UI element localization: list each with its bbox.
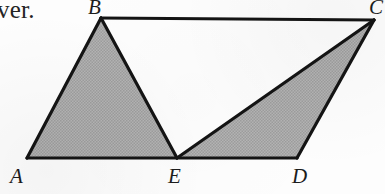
vertex-label-E: E xyxy=(168,166,181,187)
geometry-figure xyxy=(0,0,385,194)
figure-page: ver. A B C D E xyxy=(0,0,385,194)
edge-BC xyxy=(101,18,374,20)
vertex-label-D: D xyxy=(292,166,307,187)
shaded-triangle-abe xyxy=(27,18,177,158)
vertex-label-C: C xyxy=(369,0,383,18)
vertex-label-B: B xyxy=(88,0,101,18)
body-text-fragment: ver. xyxy=(0,0,35,22)
vertex-label-A: A xyxy=(10,166,23,187)
